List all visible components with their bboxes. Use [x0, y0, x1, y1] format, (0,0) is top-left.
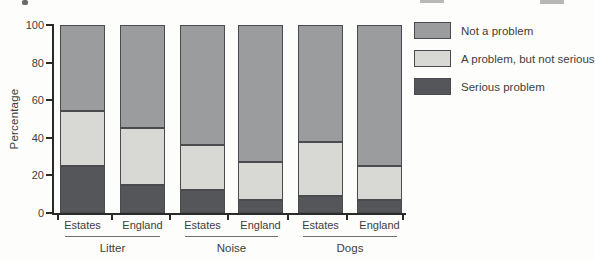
legend-label: Serious problem	[461, 81, 545, 93]
legend-swatch	[414, 22, 451, 39]
y-tick-mark	[46, 137, 52, 139]
group-label: Dogs	[305, 242, 395, 254]
legend-label: A problem, but not serious	[461, 53, 595, 65]
y-tick-mark	[46, 174, 52, 176]
bar-segment-serious-problem	[60, 166, 105, 213]
legend: Not a problemA problem, but not seriousS…	[414, 22, 595, 106]
bar-segment-not-a-problem	[120, 25, 165, 128]
bar-category-label: England	[345, 219, 415, 231]
bar-segment-a-problem-but-not-serious	[120, 128, 165, 184]
bar-segment-not-a-problem	[357, 25, 402, 166]
bar-segment-serious-problem	[120, 185, 165, 213]
bar-segment-not-a-problem	[298, 25, 343, 142]
group-underline	[185, 236, 278, 237]
y-tick-label: 60	[16, 94, 44, 106]
group-underline	[65, 236, 160, 237]
group-label: Litter	[68, 242, 158, 254]
bar-segment-a-problem-but-not-serious	[180, 145, 225, 190]
group-label: Noise	[187, 242, 277, 254]
y-tick-label: 0	[16, 207, 44, 219]
bar-segment-not-a-problem	[180, 25, 225, 145]
scan-artifact	[420, 0, 444, 3]
bar-segment-a-problem-but-not-serious	[298, 142, 343, 197]
group-underline	[303, 236, 397, 237]
bar-segment-not-a-problem	[238, 25, 283, 162]
y-tick-label: 80	[16, 57, 44, 69]
legend-label: Not a problem	[461, 25, 533, 37]
y-tick-label: 40	[16, 132, 44, 144]
y-axis-line	[52, 24, 54, 215]
y-tick-mark	[46, 212, 52, 214]
scan-artifact	[540, 0, 564, 4]
y-tick-mark	[46, 99, 52, 101]
x-axis-line	[52, 213, 406, 215]
bar-segment-a-problem-but-not-serious	[60, 111, 105, 166]
bar-segment-serious-problem	[357, 200, 402, 213]
y-tick-mark	[46, 62, 52, 64]
legend-item: Serious problem	[414, 78, 595, 95]
y-tick-label: 100	[16, 19, 44, 31]
bar-segment-serious-problem	[238, 200, 283, 213]
legend-item: Not a problem	[414, 22, 595, 39]
bar-segment-serious-problem	[298, 196, 343, 213]
bar-segment-serious-problem	[180, 190, 225, 213]
legend-swatch	[414, 50, 451, 67]
y-tick-mark	[46, 24, 52, 26]
legend-swatch	[414, 78, 451, 95]
legend-item: A problem, but not serious	[414, 50, 595, 67]
y-tick-label: 20	[16, 169, 44, 181]
scan-artifact	[22, 0, 28, 5]
bar-segment-a-problem-but-not-serious	[357, 166, 402, 200]
bar-segment-not-a-problem	[60, 25, 105, 111]
bar-segment-a-problem-but-not-serious	[238, 162, 283, 200]
